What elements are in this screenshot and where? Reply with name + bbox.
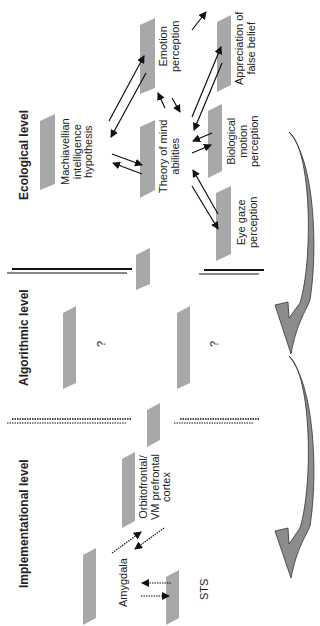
level-boxes <box>40 15 231 625</box>
box-theory-of-mind <box>140 120 155 198</box>
node-eye-gaze: Eye gaze perception <box>236 197 259 248</box>
separator-ecological-algorithmic <box>7 269 264 274</box>
box-eye-gaze <box>216 186 231 261</box>
diagram-graphics <box>0 0 320 626</box>
level-title-implementational: Implementational level <box>17 459 31 588</box>
curved-arrow-2 <box>275 356 314 578</box>
box-amygdala <box>83 548 96 625</box>
level-title-ecological: Ecological level <box>17 110 31 200</box>
box-false-belief <box>217 15 231 92</box>
node-amygdala: Amygdala <box>118 558 130 607</box>
diagram-canvas: Ecological level Algorithmic level Imple… <box>0 0 320 626</box>
box-emotion <box>140 18 155 94</box>
level-title-algorithmic: Algorithmic level <box>17 289 31 386</box>
node-sts: STS <box>199 579 211 600</box>
box-alg-lower <box>177 306 190 389</box>
unknown-mark-upper: ? <box>95 341 107 347</box>
node-emotion-perception: Emotion perception <box>158 21 181 72</box>
node-machiavellian: Machiavellian intelligence hypothesis <box>60 118 95 185</box>
curved-arrow-1 <box>275 132 314 354</box>
box-divider-eco-alg <box>136 248 150 290</box>
node-orbitofrontal: Orbitofrontal/ VM prefrontal cortex <box>138 454 173 520</box>
box-divider-alg-impl <box>147 403 160 447</box>
box-machiavellian <box>40 114 55 190</box>
node-theory-of-mind: Theory of mind abilities <box>158 120 181 193</box>
box-orbitofrontal <box>122 452 135 528</box>
level-transition-arrows <box>275 132 314 578</box>
box-sts <box>166 570 179 625</box>
node-biological-motion: Biological motion perception <box>226 116 261 167</box>
separator-algorithmic-implementational <box>7 419 260 423</box>
box-alg-upper <box>63 306 76 389</box>
node-false-belief: Appreciation of false belief <box>234 12 257 85</box>
unknown-mark-lower: ? <box>208 341 220 347</box>
box-biological-motion <box>208 104 222 178</box>
